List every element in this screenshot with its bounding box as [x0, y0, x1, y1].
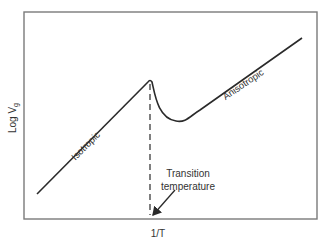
anisotropic-curve — [148, 38, 302, 121]
annotation-line2: temperature — [161, 181, 215, 192]
y-axis-label: Log Vg — [7, 103, 20, 133]
anisotropic-label: Anisotropic — [220, 66, 265, 102]
annotation-line1: Transition — [166, 168, 210, 179]
isotropic-label: Isotropic — [69, 129, 102, 162]
x-axis-label: 1/T — [151, 228, 165, 239]
transition-arrow — [153, 190, 175, 215]
diagram-canvas: Log Vg 1/T Isotropic Anisotropic Transit… — [0, 0, 329, 248]
